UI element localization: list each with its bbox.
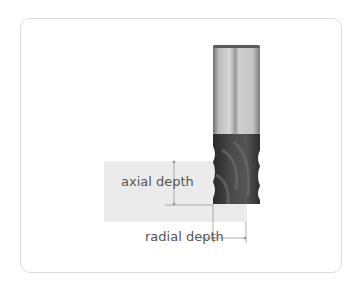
axial-depth-label: axial depth bbox=[121, 174, 194, 189]
end-mill-diagram bbox=[0, 0, 362, 290]
tool-shank bbox=[213, 45, 260, 135]
radial-depth-label: radial depth bbox=[145, 229, 224, 244]
